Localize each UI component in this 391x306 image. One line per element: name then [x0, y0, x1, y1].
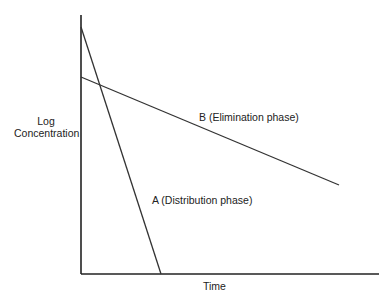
line-b-elimination — [81, 77, 339, 185]
x-axis-label: Time — [203, 280, 226, 292]
y-axis-label-line2: Concentration — [14, 127, 78, 139]
y-axis-label-line1: Log — [14, 115, 78, 127]
y-axis-label: Log Concentration — [14, 115, 78, 139]
line-b-label: B (Elimination phase) — [199, 111, 299, 123]
line-a-label: A (Distribution phase) — [152, 194, 252, 206]
pharmacokinetic-diagram — [0, 0, 391, 306]
line-a-distribution — [81, 27, 161, 274]
